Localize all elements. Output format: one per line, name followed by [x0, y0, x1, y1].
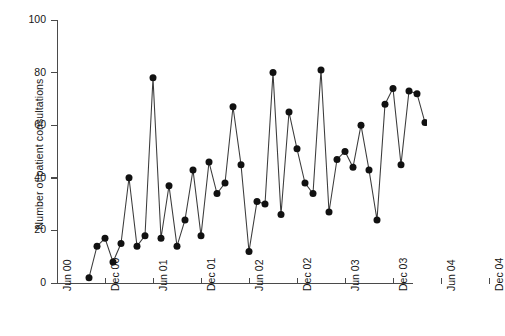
data-point [102, 235, 109, 242]
series-markers [86, 66, 428, 281]
x-tick-label: Jun 04 [445, 259, 457, 291]
data-point [302, 180, 309, 187]
data-point [366, 166, 373, 173]
x-tick-label: Dec 04 [493, 258, 505, 291]
data-point [286, 109, 293, 116]
data-point [110, 258, 117, 265]
data-point [350, 164, 357, 171]
data-point [118, 240, 125, 247]
data-point [158, 235, 165, 242]
data-point [310, 190, 317, 197]
data-point [230, 103, 237, 110]
data-point [222, 180, 229, 187]
data-point [134, 243, 141, 250]
data-point [238, 161, 245, 168]
data-point [94, 243, 101, 250]
data-point [390, 85, 397, 92]
x-tick-mark [441, 278, 442, 284]
data-point [246, 248, 253, 255]
data-point [166, 182, 173, 189]
data-point [214, 190, 221, 197]
data-point [326, 208, 333, 215]
data-point [342, 148, 349, 155]
data-point [406, 88, 413, 95]
data-point [174, 243, 181, 250]
data-point [126, 174, 133, 181]
x-tick-mark [489, 278, 490, 284]
data-point [318, 66, 325, 73]
data-point [142, 232, 149, 239]
data-point [398, 161, 405, 168]
data-point [262, 201, 269, 208]
data-point [86, 274, 93, 281]
data-point [414, 90, 421, 97]
data-point [254, 198, 261, 205]
data-point [382, 101, 389, 108]
data-point [150, 74, 157, 81]
data-point [278, 211, 285, 218]
data-point [190, 166, 197, 173]
data-point [206, 159, 213, 166]
data-point [334, 156, 341, 163]
data-point [422, 119, 428, 126]
data-point [374, 216, 381, 223]
data-point [270, 69, 277, 76]
data-point [294, 145, 301, 152]
data-point [182, 216, 189, 223]
data-point [358, 122, 365, 129]
data-point [198, 232, 205, 239]
